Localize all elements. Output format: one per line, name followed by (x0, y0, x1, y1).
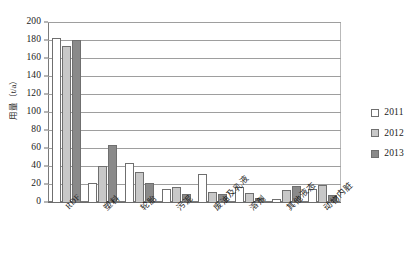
bar (162, 189, 171, 202)
legend-swatch-icon (371, 109, 379, 117)
bar-group (85, 22, 122, 202)
y-tick-label: 100 (26, 107, 41, 117)
legend-label: 2013 (384, 149, 404, 159)
bar-chart: 200180160140120100806040200 用量（t/a） RDF塑… (0, 0, 412, 264)
bar (198, 174, 207, 202)
bar-group (48, 22, 85, 202)
bar-group (121, 22, 158, 202)
legend-label: 2012 (384, 129, 404, 139)
y-tick-label: 20 (31, 179, 41, 189)
y-tick-label: 200 (26, 17, 41, 27)
bar (62, 46, 71, 202)
bar (52, 38, 61, 202)
chart-legend: 201120122013 (371, 108, 404, 159)
legend-swatch-icon (371, 129, 379, 137)
legend-swatch-icon (371, 150, 379, 158)
y-axis-title: 用量（t/a） (6, 67, 18, 129)
y-tick-label: 140 (26, 71, 41, 81)
bar (72, 40, 81, 202)
y-tick-label: 60 (31, 143, 41, 153)
bars-layer (48, 22, 341, 202)
y-tick-label: 120 (26, 89, 41, 99)
y-tick-label: 160 (26, 53, 41, 63)
bar-group (158, 22, 195, 202)
bar-group (195, 22, 232, 202)
bar (125, 163, 134, 202)
bar (88, 183, 97, 202)
y-tick-label: 0 (36, 197, 41, 207)
y-tick-label: 80 (31, 125, 41, 135)
y-tick-label: 180 (26, 35, 41, 45)
x-axis-labels: RDF塑料轮胎污泥废油及乳液溶剂其他液态动物内脏 (48, 204, 341, 262)
bar-group (231, 22, 268, 202)
bar-group (304, 22, 341, 202)
legend-label: 2011 (384, 108, 403, 118)
legend-item-2013[interactable]: 2013 (371, 149, 404, 159)
legend-item-2011[interactable]: 2011 (371, 108, 404, 118)
bar (272, 199, 281, 202)
y-tick-label: 40 (31, 161, 41, 171)
legend-item-2012[interactable]: 2012 (371, 129, 404, 139)
bar-group (268, 22, 305, 202)
